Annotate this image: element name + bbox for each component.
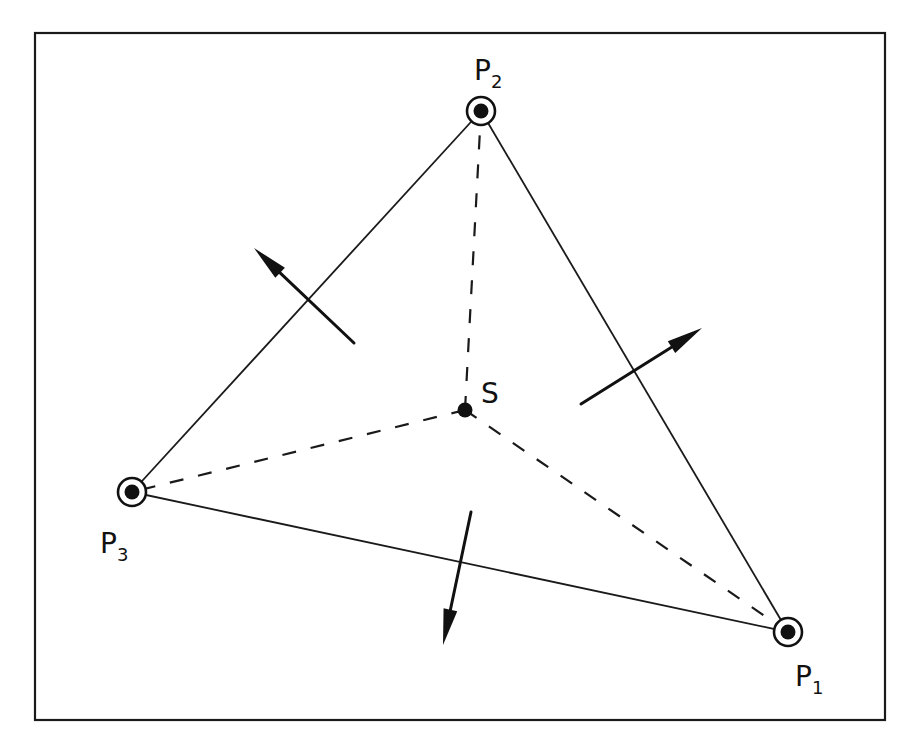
normal-arrow-p2p3-icon: [254, 248, 354, 343]
dashed-s-p1: [465, 410, 788, 632]
diagram-frame: [35, 33, 885, 720]
point-p3: [118, 478, 146, 506]
vertex-labels: P1P2P3S: [100, 54, 823, 698]
dashed-s-p2: [465, 111, 481, 410]
label-p3: P3: [100, 527, 128, 565]
triangle-edges: [132, 111, 788, 632]
point-p1: [774, 618, 802, 646]
normal-arrow-p1p2-icon: [581, 328, 702, 404]
triangle-diagram: P1P2P3S: [0, 0, 913, 749]
label-p1: P1: [795, 660, 823, 698]
normal-arrow-p3p1-icon: [443, 512, 471, 645]
edge-p2-p3: [132, 111, 481, 492]
label-p2: P2: [474, 54, 502, 92]
dashed-s-p3: [132, 410, 465, 492]
point-p2: [467, 97, 495, 125]
point-s: [458, 403, 473, 418]
center-connectors: [132, 111, 788, 632]
label-s: S: [481, 377, 499, 410]
